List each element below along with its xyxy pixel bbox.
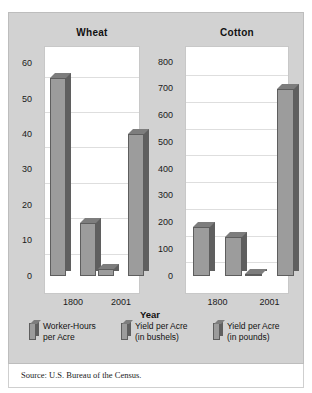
legend-swatch-top: [30, 320, 41, 324]
bar-side: [294, 84, 299, 271]
y-axis-tick-label: 20: [8, 201, 32, 210]
legend-label-line2: (in pounds): [227, 332, 280, 343]
bar-face: [128, 134, 144, 276]
axis-title-year: Year: [115, 309, 185, 320]
bar-wheat-1800-s1: [80, 223, 96, 276]
legend-label: Yield per Acre(in bushels): [135, 321, 188, 342]
gridline: [186, 209, 288, 210]
bar-side: [210, 222, 215, 271]
y-axis-tick-label: 50: [8, 95, 32, 104]
y-axis-tick-label: 100: [143, 245, 173, 254]
bar-cotton-1800-s0: [193, 227, 210, 276]
bar-face: [98, 269, 114, 276]
legend-swatch: [29, 323, 36, 340]
y-axis-tick-label: 400: [143, 165, 173, 174]
y-axis-tick-label: 700: [143, 84, 173, 93]
y-axis-tick-label: 40: [8, 130, 32, 139]
bar-face: [277, 89, 294, 276]
y-axis-tick-label: 600: [143, 111, 173, 120]
gridline: [186, 129, 288, 130]
gridline: [186, 182, 288, 183]
panel-title-wheat: Wheat: [44, 27, 140, 38]
legend-swatch-side: [127, 322, 131, 336]
gridline: [186, 155, 288, 156]
bar-side: [66, 73, 71, 271]
source-box: Source: U.S. Bureau of the Census.: [8, 364, 304, 388]
y-axis-tick-label: 60: [8, 59, 32, 68]
y-axis-tick-label: 200: [143, 218, 173, 227]
x-axis-tick-label: 1800: [198, 297, 238, 307]
legend-swatch: [121, 323, 128, 340]
y-axis-tick-label: 10: [8, 236, 32, 245]
figure-panel: Wheat Cotton Year Worker-Hoursper AcreYi…: [8, 12, 304, 364]
x-axis-tick-label: 2001: [101, 297, 141, 307]
legend-label: Worker-Hoursper Acre: [43, 321, 96, 342]
legend-swatch-top: [214, 320, 225, 324]
chart-figure: Wheat Cotton Year Worker-Hoursper AcreYi…: [0, 0, 312, 393]
y-axis-tick-label: 0: [143, 272, 173, 281]
bar-wheat-1800-s0: [50, 78, 66, 276]
legend-label-line2: per Acre: [43, 332, 96, 343]
bar-wheat-2001-s0: [98, 269, 114, 276]
y-axis-tick-label: 800: [143, 58, 173, 67]
legend-swatch-side: [35, 322, 39, 336]
bar-side: [96, 218, 101, 271]
legend-label-line1: Worker-Hours: [43, 321, 96, 332]
y-axis-tick-label: 30: [8, 165, 32, 174]
legend-swatch-side: [219, 322, 223, 336]
bar-wheat-2001-s1: [128, 134, 144, 276]
bar-side: [242, 232, 247, 271]
bar-cotton-2001-s0: [245, 274, 262, 276]
bar-cotton-2001-s1: [277, 89, 294, 276]
bar-face: [80, 223, 96, 276]
legend-swatch: [213, 323, 220, 340]
source-note: Source: U.S. Bureau of the Census.: [21, 370, 141, 380]
bar-cotton-1800-s1: [225, 237, 242, 276]
y-axis-tick-label: 500: [143, 138, 173, 147]
legend-swatch-top: [122, 320, 133, 324]
bar-face: [225, 237, 242, 276]
gridline: [186, 75, 288, 76]
bar-face: [245, 274, 262, 276]
bar-face: [50, 78, 66, 276]
legend-label: Yield per Acre(in pounds): [227, 321, 280, 342]
legend-label-line1: Yield per Acre: [227, 321, 280, 332]
gridline: [186, 102, 288, 103]
y-axis-tick-label: 0: [8, 272, 32, 281]
x-axis-tick-label: 1800: [53, 297, 93, 307]
bar-face: [193, 227, 210, 276]
panel-title-cotton: Cotton: [185, 27, 289, 38]
x-axis-tick-label: 2001: [250, 297, 290, 307]
y-axis-tick-label: 300: [143, 191, 173, 200]
legend-label-line2: (in bushels): [135, 332, 188, 343]
legend-label-line1: Yield per Acre: [135, 321, 188, 332]
